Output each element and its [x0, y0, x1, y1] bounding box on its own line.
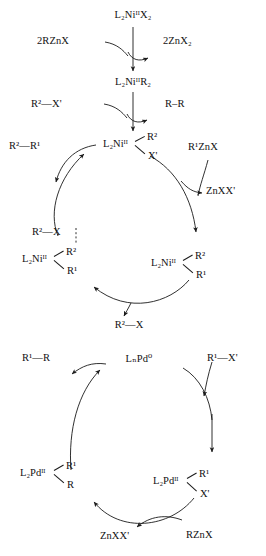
reaction-scheme: L₂NiᴵᴵX₂ 2RZnX 2ZnX₂ L₂NiᴵᴵR₂ R²—X' R–R … — [0, 0, 266, 556]
label-reagent-r1znx: R¹ZnX — [188, 142, 218, 153]
arrow-pd-right-arc — [183, 368, 212, 420]
complex-ni-right-core: L₂Niᴵᴵ — [151, 258, 176, 269]
arrow-ni-reductive-elim — [56, 145, 96, 182]
complex-ni-center-core: L₂Niᴵᴵ — [103, 139, 128, 150]
complex-ni-center-ligand-down: X' — [148, 151, 157, 162]
complex-ni-center-ligand-up: R² — [147, 132, 157, 143]
complex-pd-right-core: L₂Pdᴵᴵ — [153, 476, 178, 487]
arrow-ni-transmetalation — [150, 156, 196, 232]
label-pd-byproduct: ZnXX' — [100, 531, 129, 542]
complex-ni-left-core: L₂Niᴵᴵ — [22, 254, 47, 265]
label-pd-substrate: R¹—X' — [207, 353, 238, 364]
label-dialkyl-nickel: L₂NiᴵᴵR₂ — [115, 77, 151, 88]
complex-ni-right-ligand-down: R¹ — [196, 270, 206, 281]
arrow-pd-byproduct — [137, 517, 182, 527]
arrow-byproduct-2znx2 — [128, 52, 148, 60]
arrow-ni-bottom-arc — [94, 280, 189, 303]
complex-ni-right-ligand-up: R² — [195, 251, 205, 262]
label-byproduct-2znx2: 2ZnX₂ — [163, 36, 192, 47]
label-pd-catalyst: LₙPd⁰ — [126, 354, 153, 365]
arrow-pd-left-arc — [70, 370, 100, 470]
complex-ni-left-ligand-down: R¹ — [67, 266, 77, 277]
arrow-pd-transmetalation — [94, 498, 194, 523]
arrow-reagent-r2x — [104, 104, 127, 118]
label-pd-reagent: RZnX — [186, 530, 213, 541]
arrow-substrate-r1x — [204, 362, 212, 396]
arrow-ni-left-arc — [54, 154, 84, 236]
label-cross-coupled-product: R²—R¹ — [9, 141, 40, 152]
complex-pd-right-ligand-down: X' — [200, 489, 209, 500]
label-substrate-r2x-prime: R²—X' — [31, 99, 62, 110]
complex-ni-left-ligand-up: R² — [66, 247, 76, 258]
label-reagent-2rznx: 2RZnX — [37, 36, 69, 47]
label-byproduct-znxx: ZnXX' — [206, 186, 235, 197]
arrow-byproduct-rr — [127, 114, 147, 122]
label-ni-precatalyst: L₂NiᴵᴵX₂ — [115, 10, 152, 21]
complex-pd-left-ligand-down: R — [67, 480, 74, 491]
label-incoming-r2x: R²—X — [32, 227, 61, 238]
label-homocoupling-product: R–R — [165, 99, 185, 110]
complex-pd-left-ligand-up: R¹ — [66, 461, 76, 472]
arrow-release-r2x — [124, 303, 131, 316]
arrow-pd-product — [72, 363, 106, 374]
label-pd-product: R¹—R — [22, 353, 50, 364]
complex-pd-right-ligand-up: R¹ — [199, 469, 209, 480]
arrow-reagent-2rznx — [105, 42, 128, 56]
complex-pd-left-core: L₂Pdᴵᴵ — [20, 468, 45, 479]
label-ni-bottom-substrate: R²—X — [115, 320, 144, 331]
